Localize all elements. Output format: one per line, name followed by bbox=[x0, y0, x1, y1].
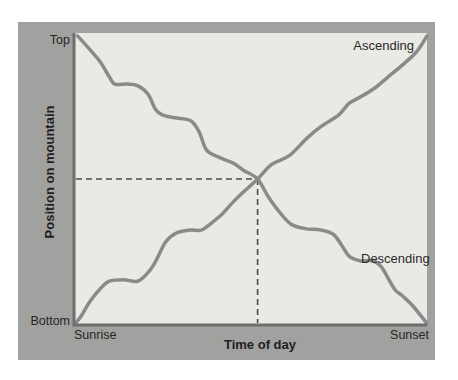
descending-curve-label: Descending bbox=[361, 252, 430, 266]
x-axis-title: Time of day bbox=[160, 338, 360, 352]
y-tick-top: Top bbox=[28, 34, 70, 48]
y-axis-title: Position on mountain bbox=[43, 106, 57, 239]
x-tick-sunrise: Sunrise bbox=[74, 329, 116, 343]
y-tick-bottom: Bottom bbox=[18, 315, 70, 329]
ascending-curve-label: Ascending bbox=[342, 39, 414, 53]
x-tick-sunset: Sunset bbox=[374, 329, 429, 343]
mountain-position-chart: Position on mountain Time of day Top Bot… bbox=[0, 0, 458, 380]
